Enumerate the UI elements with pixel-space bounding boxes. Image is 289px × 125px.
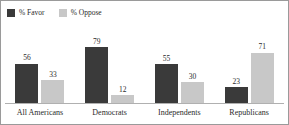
category-label: All Americans xyxy=(5,109,75,117)
bar-value-label: 56 xyxy=(23,54,31,62)
legend-label-favor: % Favor xyxy=(19,9,45,17)
legend-label-oppose: % Oppose xyxy=(71,9,102,17)
category-label: Republicans xyxy=(214,109,284,117)
bar-slot-favor: 56 xyxy=(15,23,38,104)
bar-slot-oppose: 33 xyxy=(41,23,64,104)
bar-value-label: 71 xyxy=(258,43,266,51)
category-label: Independents xyxy=(145,109,215,117)
legend-item-oppose[interactable]: % Oppose xyxy=(59,9,102,17)
square-swatch-icon xyxy=(59,9,67,17)
bar-slot-oppose: 30 xyxy=(181,23,204,104)
bar-slot-favor: 79 xyxy=(85,23,108,104)
bar-group: 5633 xyxy=(5,23,75,104)
x-axis-category-labels: All AmericansDemocratsIndependentsRepubl… xyxy=(5,106,284,120)
bar-favor[interactable] xyxy=(85,47,108,104)
plot-area: 5633791255302371 All AmericansDemocratsI… xyxy=(1,23,288,124)
bar-value-label: 79 xyxy=(93,38,101,46)
bar-oppose[interactable] xyxy=(41,80,64,104)
bar-value-label: 30 xyxy=(189,73,197,81)
bar-value-label: 55 xyxy=(163,55,171,63)
bar-group: 2371 xyxy=(214,23,284,104)
x-axis-baseline xyxy=(5,103,284,104)
bar-slot-oppose: 71 xyxy=(251,23,274,104)
square-swatch-icon xyxy=(7,9,15,17)
bar-favor[interactable] xyxy=(225,87,248,104)
bar-group: 7912 xyxy=(75,23,145,104)
bar-value-label: 23 xyxy=(232,78,240,86)
bar-group: 5530 xyxy=(145,23,215,104)
category-label: Democrats xyxy=(75,109,145,117)
bar-slot-favor: 55 xyxy=(155,23,178,104)
bar-oppose[interactable] xyxy=(181,82,204,104)
legend-item-favor[interactable]: % Favor xyxy=(7,9,45,17)
bar-value-label: 12 xyxy=(119,86,127,94)
bar-value-label: 33 xyxy=(49,71,57,79)
bar-groups: 5633791255302371 xyxy=(5,23,284,104)
bar-slot-favor: 23 xyxy=(225,23,248,104)
chart-legend: % Favor % Oppose xyxy=(7,7,102,18)
bar-slot-oppose: 12 xyxy=(111,23,134,104)
bar-favor[interactable] xyxy=(155,64,178,104)
bar-favor[interactable] xyxy=(15,64,38,104)
bar-chart: % Favor % Oppose 5633791255302371 All Am… xyxy=(0,0,289,125)
bar-oppose[interactable] xyxy=(251,53,274,104)
